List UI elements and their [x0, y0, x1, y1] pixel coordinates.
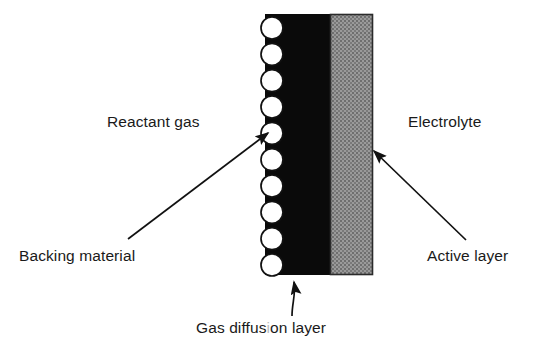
gas-diffusion-layer-arrow — [292, 282, 295, 316]
label-gas-diffusion-layer: Gas diffusion layer — [196, 320, 326, 336]
label-electrolyte: Electrolyte — [408, 114, 481, 130]
particle — [261, 70, 283, 92]
gas-diffusion-text-b: on layer — [270, 319, 326, 336]
active-layer-arrow — [374, 151, 466, 240]
particle — [261, 96, 283, 118]
label-reactant-gas: Reactant gas — [107, 114, 200, 130]
backing-material-arrow — [128, 133, 268, 239]
particle — [261, 228, 283, 250]
particle — [261, 122, 283, 144]
diagram-figure: Reactant gas Electrolyte Backing materia… — [0, 0, 554, 357]
particle — [261, 254, 283, 276]
particle — [261, 175, 283, 197]
electrode-cross-section-diagram — [0, 0, 554, 357]
particle — [261, 149, 283, 171]
particle — [261, 17, 283, 39]
gas-diffusion-faded-i: i — [267, 319, 271, 336]
label-active-layer: Active layer — [427, 248, 508, 264]
particle — [261, 43, 283, 65]
gas-diffusion-text-a: Gas diffus — [196, 319, 267, 336]
label-backing-material: Backing material — [19, 248, 135, 264]
particle — [261, 201, 283, 223]
active-layer — [330, 14, 373, 275]
